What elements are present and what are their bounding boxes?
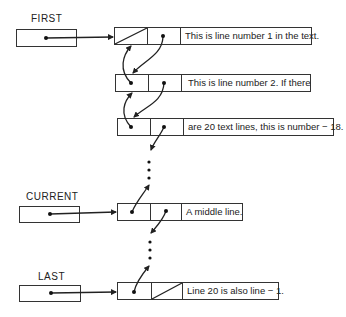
node-last-next-cell (151, 282, 183, 300)
node-2-text: This is line number 2. If there (181, 74, 311, 92)
last-label: LAST (38, 271, 65, 282)
node-3-prev-cell (117, 118, 151, 136)
node-1-prev-cell (114, 27, 148, 45)
ellipsis-dots-upper (147, 160, 150, 179)
current-label: CURRENT (26, 191, 78, 202)
node-3-text: are 20 text lines, this is number − 18. (183, 118, 334, 136)
first-pointer-box (16, 29, 77, 47)
current-pointer-box (19, 206, 80, 223)
node-3-next-cell (150, 118, 184, 136)
ellipsis-dots-lower (148, 240, 151, 259)
node-middle-text: A middle line. (181, 203, 243, 221)
pointer-arrows-overlay (0, 0, 346, 317)
last-pointer-box (19, 285, 81, 302)
node-1-next-cell (147, 27, 181, 45)
node-1-text: This is line number 1 in the text. (180, 27, 312, 45)
node-middle-prev-cell (117, 203, 151, 221)
first-label: FIRST (31, 13, 62, 24)
node-2-next-cell (148, 74, 182, 92)
node-2-prev-cell (115, 74, 149, 92)
node-last-prev-cell (117, 282, 152, 300)
node-last-text: Line 20 is also line − 1. (182, 282, 279, 300)
node-middle-next-cell (150, 203, 182, 221)
